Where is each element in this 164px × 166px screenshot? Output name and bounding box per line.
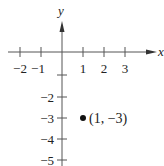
x-axis-arrow-icon xyxy=(146,50,157,55)
x-tick-label: −1 xyxy=(31,61,45,76)
y-axis-label: y xyxy=(56,3,64,18)
point-marker-icon xyxy=(80,115,86,121)
y-tick-label: −5 xyxy=(40,153,54,166)
y-axis-arrow-icon xyxy=(60,21,65,32)
x-tick-label: −2 xyxy=(13,61,27,76)
x-tick-label: 3 xyxy=(122,61,129,76)
x-axis: x −2 −1 1 2 3 xyxy=(8,44,164,76)
y-tick-label: −2 xyxy=(40,90,54,105)
coordinate-plane: x −2 −1 1 2 3 y −2 −3 −4 −5 (1, −3) xyxy=(0,0,164,166)
x-axis-label: x xyxy=(157,44,164,59)
x-tick-label: 1 xyxy=(80,61,87,76)
y-tick-label: −3 xyxy=(40,111,54,126)
x-tick-label: 2 xyxy=(101,61,108,76)
y-tick-label: −4 xyxy=(40,132,54,147)
y-axis: y −2 −3 −4 −5 xyxy=(40,3,67,166)
point-label: (1, −3) xyxy=(89,111,128,127)
data-point: (1, −3) xyxy=(80,111,128,127)
